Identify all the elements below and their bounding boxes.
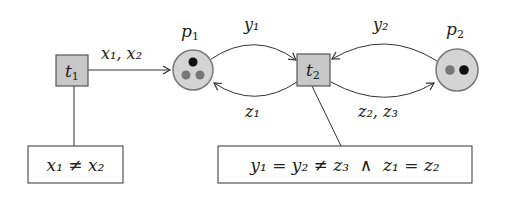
guard-text-t1: x₁ ≠ x₂	[47, 155, 105, 175]
token-p2-0	[445, 65, 455, 75]
arc-label-t1-p1: x₁, x₂	[101, 44, 142, 63]
place-p2-label: p2	[446, 19, 464, 41]
token-p1-2	[196, 71, 205, 80]
petri-net-diagram: t1 t2 p1 p2 x₁, x₂ y₁ z₁ y₂ z₂, z₃ x₁ ≠ …	[0, 0, 511, 198]
arc-label-t2-p2: z₂, z₃	[357, 102, 398, 121]
guard-connector-t2	[312, 86, 341, 146]
arc-label-p2-t2: y₂	[372, 15, 388, 34]
place-p2[interactable]	[436, 49, 478, 91]
arc-p2-t2	[332, 44, 437, 61]
token-p1-1	[182, 71, 191, 80]
arc-p1-t2	[211, 45, 296, 60]
arc-label-p1-t2: y₁	[243, 15, 259, 34]
arc-t2-p1	[214, 82, 297, 96]
arc-label-t2-p1: z₁	[244, 102, 260, 121]
token-p2-1	[459, 65, 469, 75]
token-p1-0	[189, 58, 198, 67]
place-p1-label: p1	[181, 21, 199, 43]
guard-text-t2: y₁ = y₂ ≠ z₃ ∧ z₁ = z₂	[249, 155, 440, 175]
place-p1[interactable]	[173, 50, 213, 90]
arc-t2-p2	[331, 82, 434, 97]
